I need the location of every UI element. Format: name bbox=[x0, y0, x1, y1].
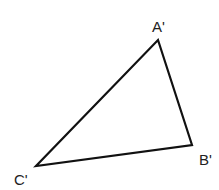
triangle-a-b-c-prime bbox=[36, 40, 192, 166]
vertex-label-b-prime: B' bbox=[199, 151, 212, 168]
vertex-label-c-prime: C' bbox=[14, 171, 28, 188]
vertex-label-a-prime: A' bbox=[152, 18, 165, 35]
triangle-diagram: A' B' C' bbox=[0, 0, 219, 190]
